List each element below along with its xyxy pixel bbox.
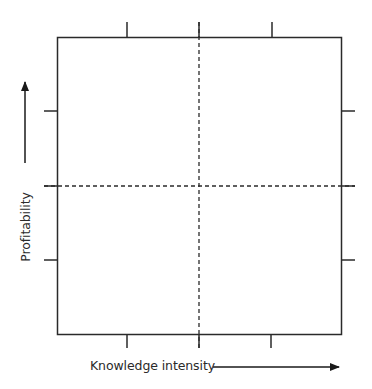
top-ticks bbox=[127, 22, 272, 37]
quadrant-diagram bbox=[0, 0, 372, 389]
y-axis-label: Profitability bbox=[18, 192, 33, 262]
right-ticks bbox=[341, 111, 355, 260]
bottom-ticks bbox=[127, 335, 271, 348]
left-ticks bbox=[44, 111, 57, 260]
x-axis-label: Knowledge intensity bbox=[90, 358, 215, 373]
